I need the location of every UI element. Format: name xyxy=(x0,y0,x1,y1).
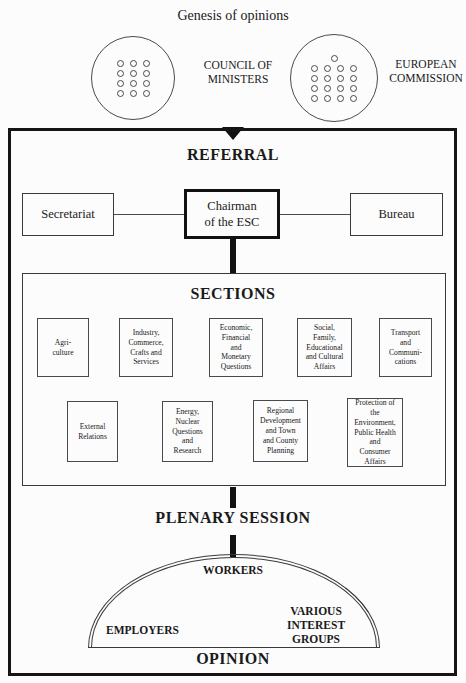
section-box-social: Social, Family, Educational and Cultural… xyxy=(297,318,352,377)
section-box-agriculture: Agri- culture xyxy=(37,318,89,377)
member-dots-icon xyxy=(311,52,357,105)
connector-secretariat-chairman xyxy=(114,214,184,215)
chairman-box: Chairman of the ESC xyxy=(184,189,280,239)
connector-chairman-bureau xyxy=(280,214,350,215)
sections-heading: SECTIONS xyxy=(0,285,466,303)
member-dots-icon xyxy=(117,57,150,100)
plenary-session-heading: PLENARY SESSION xyxy=(0,509,466,527)
council-of-ministers-label: COUNCIL OF MINISTERS xyxy=(190,58,286,87)
various-interest-groups-label: VARIOUS INTEREST GROUPS xyxy=(268,605,364,646)
employers-label: EMPLOYERS xyxy=(106,624,179,638)
council-of-ministers-circle xyxy=(91,36,175,120)
diagram-title: Genesis of opinions xyxy=(0,8,466,24)
workers-label: WORKERS xyxy=(0,564,466,578)
link-chairman-sections xyxy=(230,238,236,274)
section-box-energy: Energy, Nuclear Questions and Research xyxy=(162,401,213,462)
section-box-industry: Industry, Commerce, Crafts and Services xyxy=(119,318,173,377)
section-box-transport: Transport and Communi- cations xyxy=(379,318,432,377)
european-commission-label: EUROPEAN COMMISSION xyxy=(386,57,466,86)
section-box-environment: Protection of the Environment, Public He… xyxy=(347,398,403,467)
opinion-heading: OPINION xyxy=(0,650,466,668)
bureau-box: Bureau xyxy=(350,193,443,236)
secretariat-box: Secretariat xyxy=(22,193,114,236)
section-box-regional: Regional Development and Town and County… xyxy=(253,400,308,462)
link-sections-plenary xyxy=(230,487,236,508)
referral-heading: REFERRAL xyxy=(0,146,466,164)
section-box-external-relations: External Relations xyxy=(67,401,118,462)
european-commission-circle xyxy=(290,34,378,122)
section-box-economic: Economic, Financial and Monetary Questio… xyxy=(209,318,263,377)
